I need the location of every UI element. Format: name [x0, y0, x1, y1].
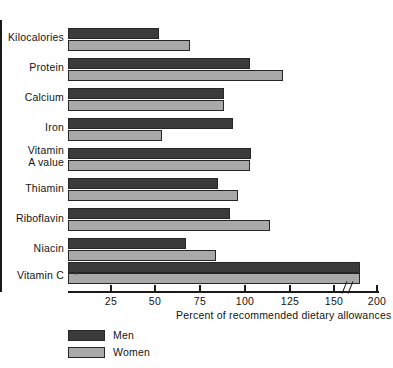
category-label-protein: Protein	[29, 62, 64, 73]
legend-swatch-men	[68, 330, 105, 341]
bar-men-protein	[68, 58, 250, 69]
tick-label-200: 200	[368, 295, 386, 307]
tick-label-100: 100	[236, 295, 254, 307]
tick-mark-125	[289, 285, 291, 292]
axis-break-icon	[340, 281, 360, 295]
category-label-calcium: Calcium	[25, 92, 64, 103]
category-label-text: Thiamin	[25, 182, 64, 194]
bar-men-kilocalories	[68, 28, 159, 39]
bar-women-vitamin-a-value	[68, 160, 250, 171]
category-label-text-line2: A value	[28, 157, 64, 169]
bar-men-riboflavin	[68, 208, 230, 219]
category-label-text: Protein	[29, 61, 64, 73]
tick-mark-50	[154, 285, 156, 292]
bar-women-vitamin-c	[68, 273, 360, 284]
tick-label-25: 25	[105, 295, 117, 307]
bar-men-thiamin	[68, 178, 218, 189]
bar-men-vitamin-a-value	[68, 148, 251, 159]
category-label-vitamin-c: Vitamin C	[17, 270, 64, 281]
category-label-text: Riboflavin	[16, 212, 64, 224]
category-label-text: Iron	[45, 121, 64, 133]
category-label-riboflavin: Riboflavin	[16, 213, 64, 224]
category-label-text: Vitamin C	[17, 269, 64, 281]
x-axis-title: Percent of recommended dietary allowance…	[176, 309, 391, 321]
tick-label-75: 75	[194, 295, 206, 307]
tick-mark-150	[333, 285, 335, 292]
tick-mark-25	[110, 285, 112, 292]
category-label-kilocalories: Kilocalories	[8, 32, 64, 43]
category-label-text: Niacin	[34, 242, 64, 254]
bar-men-iron	[68, 118, 233, 129]
bar-women-iron	[68, 130, 162, 141]
bar-women-riboflavin	[68, 220, 270, 231]
tick-label-50: 50	[149, 295, 161, 307]
bar-men-vitamin-c	[68, 262, 360, 273]
bar-women-thiamin	[68, 190, 238, 201]
bar-men-niacin	[68, 238, 186, 249]
tick-mark-75	[199, 285, 201, 292]
category-label-iron: Iron	[45, 122, 64, 133]
category-axis-line	[0, 20, 2, 292]
footnote-asterisk: *	[74, 272, 77, 280]
bar-women-kilocalories	[68, 40, 190, 51]
category-label-niacin: Niacin	[34, 243, 64, 254]
tick-mark-200	[376, 285, 378, 292]
bar-men-calcium	[68, 88, 224, 99]
category-label-text: Calcium	[25, 91, 64, 103]
bar-chart: Kilocalories Protein Calcium Iron Vitami…	[0, 0, 393, 368]
tick-label-125: 125	[281, 295, 299, 307]
category-label-vitamin-a-value: Vitamin A value	[28, 145, 64, 168]
category-label-text-line1: Vitamin	[28, 145, 64, 157]
bar-women-niacin	[68, 250, 216, 261]
category-label-text: Kilocalories	[8, 31, 64, 43]
tick-mark-100	[244, 285, 246, 292]
legend-label-men: Men	[113, 329, 134, 341]
legend-label-women: Women	[113, 346, 150, 358]
category-label-thiamin: Thiamin	[25, 183, 64, 194]
legend-swatch-women	[68, 347, 105, 358]
bar-women-protein	[68, 70, 283, 81]
tick-label-150: 150	[325, 295, 343, 307]
bar-women-calcium	[68, 100, 224, 111]
